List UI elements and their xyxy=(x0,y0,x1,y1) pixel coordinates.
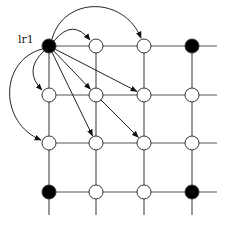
filled-node-n33 xyxy=(185,185,199,199)
empty-node-n22 xyxy=(137,136,151,150)
arrow-n00-to-n10 xyxy=(54,29,90,41)
grid-diagram: lr1 xyxy=(0,0,230,228)
arrow-n00-to-n01 xyxy=(33,51,44,90)
filled-node-n30 xyxy=(185,39,199,53)
empty-node-n10 xyxy=(89,39,103,53)
empty-node-n01 xyxy=(42,88,56,102)
empty-node-n20 xyxy=(137,39,151,53)
node-label-lr1: lr1 xyxy=(18,33,34,46)
arrow-n00-to-n02 xyxy=(10,49,42,140)
filled-node-n00 xyxy=(42,39,56,53)
arrow-n00-to-n20 xyxy=(52,7,141,39)
empty-node-n21 xyxy=(137,88,151,102)
empty-node-n23 xyxy=(137,185,151,199)
empty-node-n12 xyxy=(89,136,103,150)
arrow-n11-to-n22 xyxy=(101,100,138,137)
empty-node-n02 xyxy=(42,136,56,150)
arrows xyxy=(10,7,141,140)
arrow-n00-to-n11 xyxy=(54,51,91,89)
empty-node-n13 xyxy=(89,185,103,199)
empty-node-n11 xyxy=(89,88,103,102)
empty-node-n31 xyxy=(185,88,199,102)
empty-node-n32 xyxy=(185,136,199,150)
filled-node-n03 xyxy=(42,185,56,199)
